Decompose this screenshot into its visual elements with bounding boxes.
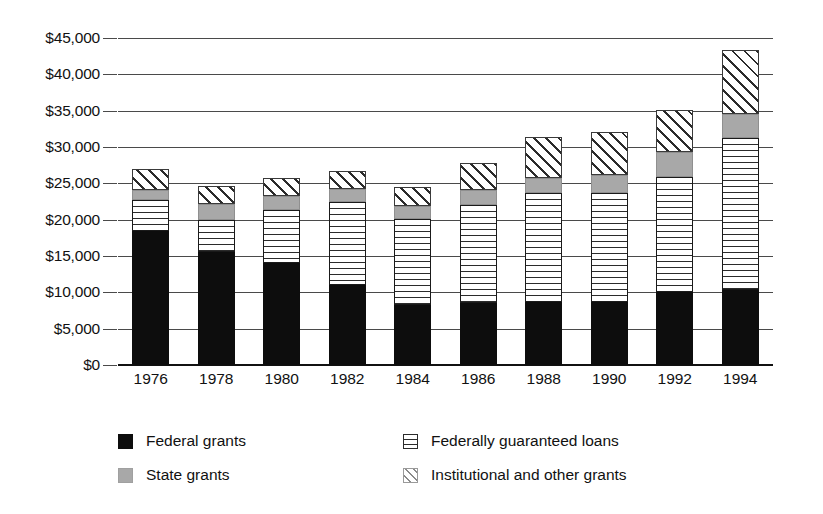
y-tick-label: $45,000	[45, 29, 100, 47]
bar-segment-horizontal-lines	[460, 205, 497, 303]
bar-segment-solid-black	[722, 290, 759, 365]
y-tick-mark	[103, 220, 117, 221]
bar-segment-solid-gray	[263, 196, 300, 210]
bar-segment-solid-black	[394, 305, 431, 365]
bar-segment-solid-gray	[591, 175, 628, 193]
solid-gray-icon	[118, 468, 133, 483]
bar-stack	[722, 50, 759, 365]
x-tick-label: 1994	[723, 370, 757, 388]
bar-segment-diagonal-hatch	[460, 163, 497, 190]
legend-item-label: Federally guaranteed loans	[431, 432, 619, 450]
bar-stack	[263, 178, 300, 365]
x-tick-label: 1976	[134, 370, 168, 388]
x-tick-label: 1990	[592, 370, 626, 388]
x-tick-label: 1992	[658, 370, 692, 388]
bar-segment-horizontal-lines	[394, 219, 431, 305]
x-tick-label: 1988	[527, 370, 561, 388]
y-tick-mark	[103, 183, 117, 184]
bar-segment-solid-gray	[525, 178, 562, 193]
legend-item-label: Institutional and other grants	[431, 466, 627, 484]
bar-segment-solid-black	[132, 231, 169, 365]
y-tick-mark	[103, 111, 117, 112]
bar-stack	[329, 171, 366, 365]
y-axis: $0$5,000$10,000$15,000$20,000$25,000$30,…	[8, 38, 100, 365]
bar-segment-horizontal-lines	[132, 200, 169, 231]
x-axis: 1976197819801982198419861988199019921994	[118, 370, 773, 396]
y-tick-mark	[103, 38, 117, 39]
bar-segment-solid-gray	[656, 152, 693, 177]
bar-segment-horizontal-lines	[722, 138, 759, 291]
legend-item-label: State grants	[146, 466, 230, 484]
bar-stack	[591, 132, 628, 365]
bar-segment-solid-black	[329, 285, 366, 365]
diagonal-hatch-icon	[403, 468, 418, 483]
bar-segment-horizontal-lines	[198, 220, 235, 252]
horizontal-lines-icon	[403, 434, 418, 449]
bar-segment-horizontal-lines	[263, 210, 300, 263]
y-tick-mark	[103, 147, 117, 148]
chart-legend: Federal grantsState grantsFederally guar…	[118, 432, 808, 502]
bar-stack	[132, 169, 169, 365]
gridline	[118, 74, 773, 75]
y-tick-label: $20,000	[45, 211, 100, 229]
y-tick-label: $10,000	[45, 283, 100, 301]
bar-segment-solid-gray	[132, 190, 169, 200]
solid-black-icon	[118, 434, 133, 449]
bar-segment-solid-black	[656, 292, 693, 365]
bar-segment-horizontal-lines	[591, 193, 628, 302]
bar-segment-horizontal-lines	[525, 193, 562, 302]
y-tick-label: $0	[83, 356, 100, 374]
bar-segment-solid-black	[198, 252, 235, 365]
y-tick-label: $15,000	[45, 247, 100, 265]
bar-segment-solid-black	[460, 303, 497, 365]
bar-segment-solid-black	[263, 263, 300, 365]
legend-item[interactable]: Institutional and other grants	[403, 466, 627, 484]
bar-segment-diagonal-hatch	[263, 178, 300, 196]
y-tick-mark	[103, 74, 117, 75]
bar-segment-diagonal-hatch	[591, 132, 628, 174]
bar-segment-diagonal-hatch	[394, 187, 431, 206]
stacked-bar-chart: $0$5,000$10,000$15,000$20,000$25,000$30,…	[0, 0, 823, 514]
y-tick-mark	[103, 329, 117, 330]
y-tick-label: $25,000	[45, 174, 100, 192]
bar-segment-solid-gray	[460, 190, 497, 205]
x-tick-label: 1982	[330, 370, 364, 388]
x-tick-label: 1980	[265, 370, 299, 388]
x-tick-label: 1978	[199, 370, 233, 388]
legend-item[interactable]: Federal grants	[118, 432, 246, 450]
bar-segment-solid-black	[591, 302, 628, 365]
y-tick-label: $5,000	[54, 320, 100, 338]
legend-item-label: Federal grants	[146, 432, 246, 450]
gridline	[118, 38, 773, 39]
bar-stack	[525, 137, 562, 365]
bar-segment-diagonal-hatch	[525, 137, 562, 178]
bar-stack	[198, 186, 235, 365]
y-tick-label: $30,000	[45, 138, 100, 156]
bar-segment-diagonal-hatch	[198, 186, 235, 204]
bar-segment-diagonal-hatch	[329, 171, 366, 189]
bar-segment-diagonal-hatch	[132, 169, 169, 190]
y-tick-mark	[103, 256, 117, 257]
y-tick-label: $40,000	[45, 65, 100, 83]
y-tick-mark	[103, 365, 117, 366]
bar-segment-diagonal-hatch	[656, 110, 693, 152]
y-tick-mark	[103, 292, 117, 293]
plot-area	[118, 38, 773, 365]
bar-segment-solid-black	[525, 302, 562, 365]
bar-segment-solid-gray	[394, 206, 431, 219]
bar-stack	[656, 110, 693, 365]
legend-item[interactable]: Federally guaranteed loans	[403, 432, 619, 450]
bar-stack	[460, 163, 497, 365]
x-tick-label: 1986	[461, 370, 495, 388]
y-tick-label: $35,000	[45, 102, 100, 120]
legend-item[interactable]: State grants	[118, 466, 230, 484]
bar-segment-solid-gray	[198, 204, 235, 221]
x-tick-label: 1984	[396, 370, 430, 388]
bar-segment-diagonal-hatch	[722, 50, 759, 113]
bar-stack	[394, 187, 431, 365]
bar-segment-solid-gray	[329, 189, 366, 202]
bar-segment-solid-gray	[722, 114, 759, 138]
bar-segment-horizontal-lines	[329, 202, 366, 285]
bar-segment-horizontal-lines	[656, 177, 693, 292]
